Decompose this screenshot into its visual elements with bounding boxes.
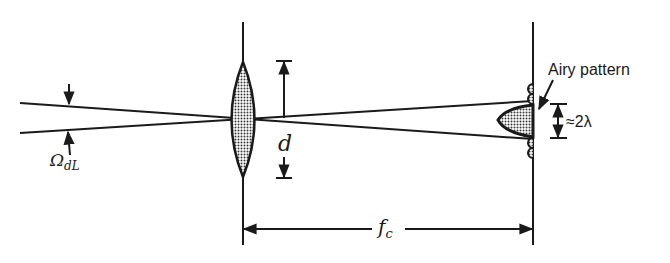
incoming-beam xyxy=(20,101,533,139)
airy-width-label: ≈2λ xyxy=(566,113,592,130)
airy-pattern-label: Airy pattern xyxy=(548,61,630,78)
focal-length-label: fc xyxy=(376,215,393,241)
aperture-label: d xyxy=(278,131,292,156)
lens xyxy=(232,62,255,177)
airy-width-dimension xyxy=(550,104,567,138)
optics-diagram: ΩdL d fc Airy pattern ≈2λ xyxy=(0,0,670,263)
divergence-angle-arrows xyxy=(68,84,70,155)
aperture-dimension xyxy=(276,61,292,178)
solid-angle-label: ΩdL xyxy=(49,150,80,173)
airy-pattern xyxy=(498,84,533,158)
